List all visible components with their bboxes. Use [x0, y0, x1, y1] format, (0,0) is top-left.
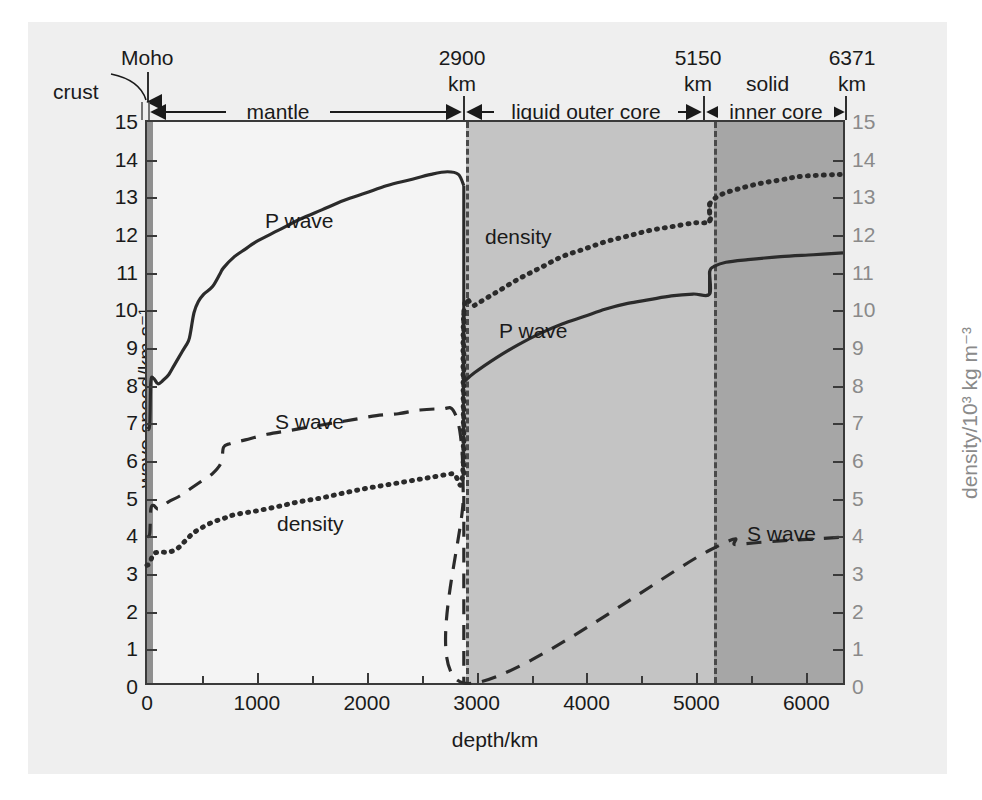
y-tickmark-left-7: [147, 423, 157, 425]
x-tickmark-minor-1500: [312, 676, 314, 683]
y-tick-right-6: 6: [852, 449, 864, 473]
x-tick-0: 0: [141, 691, 153, 715]
label-p-wave-outer-core: P wave: [499, 319, 568, 343]
x-tick-6000: 6000: [783, 691, 830, 715]
y-tick-left-15: 15: [115, 110, 138, 134]
y-tickmark-right-11: [833, 273, 843, 275]
x-tick-4000: 4000: [563, 691, 610, 715]
y-tick-left-11: 11: [116, 261, 138, 285]
x-axis-title: depth/km: [145, 728, 845, 752]
y-tick-right-4: 4: [852, 524, 864, 548]
y-tick-right-13: 13: [852, 185, 875, 209]
y-tickmark-right-2: [833, 612, 843, 614]
x-tickmark-minor-5500: [751, 676, 753, 683]
y-tick-right-3: 3: [852, 562, 864, 586]
y-tick-right-0: 0: [852, 675, 864, 699]
y-tickmark-right-4: [833, 536, 843, 538]
y-tickmark-right-13: [833, 197, 843, 199]
y-tick-left-1: 1: [126, 637, 138, 661]
x-tick-5000: 5000: [673, 691, 720, 715]
y-tick-right-1: 1: [852, 637, 864, 661]
y-tickmark-right-1: [833, 649, 843, 651]
y-tickmark-left-9: [147, 348, 157, 350]
x-tickmark-5000: [696, 673, 698, 683]
y-tickmark-left-8: [147, 386, 157, 388]
series-p-wave: [147, 172, 843, 430]
x-tickmark-4000: [586, 673, 588, 683]
y-tick-left-5: 5: [126, 487, 138, 511]
y-tick-left-8: 8: [126, 374, 138, 398]
series-s-wave: [147, 408, 843, 684]
y-tick-left-9: 9: [126, 336, 138, 360]
y-tick-right-8: 8: [852, 374, 864, 398]
y-tick-left-7: 7: [126, 411, 138, 435]
x-tickmark-minor-4500: [641, 676, 643, 683]
layer-span-arrows: mantle liquid outer core inner core: [28, 22, 947, 122]
x-tick-1000: 1000: [234, 691, 281, 715]
y-tick-right-2: 2: [852, 600, 864, 624]
y-tickmark-right-10: [833, 310, 843, 312]
y-tickmark-left-12: [147, 235, 157, 237]
x-tick-2000: 2000: [343, 691, 390, 715]
y-tick-right-12: 12: [852, 223, 875, 247]
y-tick-left-3: 3: [126, 562, 138, 586]
y-tick-right-5: 5: [852, 487, 864, 511]
y-tick-right-14: 14: [852, 148, 875, 172]
x-tickmark-minor-500: [202, 676, 204, 683]
y-tick-left-6: 6: [126, 449, 138, 473]
y-tick-right-9: 9: [852, 336, 864, 360]
y-tick-left-10: 10: [115, 298, 138, 322]
y-tickmark-left-14: [147, 160, 157, 162]
y-tick-left-13: 13: [115, 185, 138, 209]
y-tickmark-left-3: [147, 574, 157, 576]
y-tick-left-2: 2: [126, 600, 138, 624]
y-tickmark-left-6: [147, 461, 157, 463]
plot-area: P wave S wave density P wave density S w…: [145, 120, 845, 685]
y-tickmark-left-5: [147, 499, 157, 501]
label-s-wave-inner-core: S wave: [747, 522, 816, 546]
x-tickmark-minor-3500: [532, 676, 534, 683]
y-tick-left-14: 14: [115, 148, 138, 172]
y-tick-right-7: 7: [852, 411, 864, 435]
label-density-outer-core: density: [485, 225, 552, 249]
y-tickmark-right-9: [833, 348, 843, 350]
x-tick-3000: 3000: [453, 691, 500, 715]
y-tick-left-12: 12: [115, 223, 138, 247]
y-tickmark-left-13: [147, 197, 157, 199]
y-tickmark-right-8: [833, 386, 843, 388]
y-tickmark-right-5: [833, 499, 843, 501]
x-tickmark-1000: [257, 673, 259, 683]
y-tickmark-right-12: [833, 235, 843, 237]
y-tickmark-right-7: [833, 423, 843, 425]
y-tickmark-left-4: [147, 536, 157, 538]
x-tickmark-6000: [806, 673, 808, 683]
y-tickmark-right-3: [833, 574, 843, 576]
x-tickmark-minor-2500: [422, 676, 424, 683]
y-tick-right-10: 10: [852, 298, 875, 322]
y-tickmark-left-10: [147, 310, 157, 312]
curves-layer: [147, 122, 843, 683]
y-axis-right-title: density/10³ kg m⁻³: [958, 327, 982, 499]
y-tickmark-left-2: [147, 612, 157, 614]
label-density-mantle: density: [277, 512, 344, 536]
y-tickmark-left-11: [147, 273, 157, 275]
y-tickmark-right-6: [833, 461, 843, 463]
y-tick-left-4: 4: [126, 524, 138, 548]
label-p-wave-mantle: P wave: [265, 209, 334, 233]
y-tick-right-11: 11: [852, 261, 874, 285]
curve-p-wave-seg1: [464, 253, 843, 382]
curve-s-wave-seg0: [147, 408, 843, 684]
y-tickmark-right-14: [833, 160, 843, 162]
y-tickmark-left-1: [147, 649, 157, 651]
figure-panel: crust Moho 2900 km 5150 km solid 6371 km…: [28, 22, 947, 774]
label-s-wave-mantle: S wave: [275, 410, 344, 434]
x-tickmark-2000: [367, 673, 369, 683]
y-tick-left-0: 0: [126, 675, 138, 699]
x-tickmark-3000: [477, 673, 479, 683]
y-tick-right-15: 15: [852, 110, 875, 134]
